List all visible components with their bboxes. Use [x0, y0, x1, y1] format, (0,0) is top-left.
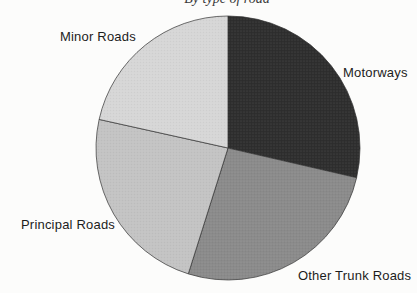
slice-label-minor-roads: Minor Roads — [60, 29, 136, 44]
slice-label-principal-roads: Principal Roads — [21, 217, 115, 232]
slice-label-motorways: Motorways — [343, 65, 408, 80]
slice-label-other-trunk-roads: Other Trunk Roads — [298, 268, 411, 283]
chart-page: By type of road Minor Roads Motorways Pr… — [0, 0, 417, 293]
halftone-texture-overlay — [96, 16, 360, 280]
